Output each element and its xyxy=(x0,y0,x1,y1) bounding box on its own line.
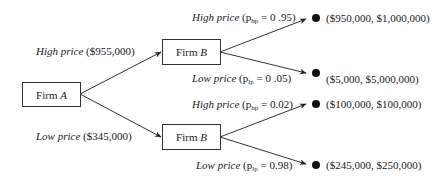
terminal-node-1 xyxy=(312,14,320,22)
terminal-node-4 xyxy=(312,161,320,169)
edge-b1-low xyxy=(220,52,306,73)
node-firm-b-upper: Firm B xyxy=(162,39,221,65)
payoff-1: ($950,000, $1,000,000) xyxy=(326,12,430,25)
firm-a-move-high: High price ($955,000) xyxy=(36,45,135,58)
node-firm-a-name: Firm xyxy=(36,89,57,101)
move-label: Low price xyxy=(192,72,236,84)
move-label: High price xyxy=(192,98,239,110)
node-firm-b-lower-name: Firm xyxy=(176,131,197,143)
edge-a-high xyxy=(80,52,161,94)
move-value: ($955,000) xyxy=(86,45,135,57)
node-firm-b-upper-player: B xyxy=(200,46,207,58)
terminal-node-2 xyxy=(312,69,320,77)
prob-subscript: lp xyxy=(248,78,253,86)
prob-subscript: hp xyxy=(251,104,258,112)
prob-value: = 0.02) xyxy=(261,98,293,110)
node-firm-b-lower-player: B xyxy=(200,131,207,143)
prob-subscript: hp xyxy=(251,17,258,25)
payoff-3: ($100,000, $100,000) xyxy=(326,98,421,111)
firm-b-move-4: Low price (plp = 0.98) xyxy=(196,159,292,176)
node-firm-a-player: A xyxy=(60,89,67,101)
prob-value: = 0.98) xyxy=(260,159,292,171)
move-value: ($345,000) xyxy=(83,130,132,142)
firm-b-move-1: High price (php = 0 .95) xyxy=(192,11,296,28)
terminal-node-3 xyxy=(312,100,320,108)
node-firm-b-lower: Firm B xyxy=(162,124,221,150)
move-label: Low price xyxy=(36,130,80,142)
payoff-2: ($5,000, $5,000,000) xyxy=(326,73,419,86)
firm-a-move-low: Low price ($345,000) xyxy=(36,130,132,143)
move-label: High price xyxy=(36,45,83,57)
move-label: High price xyxy=(192,11,239,23)
prob-value: = 0 .05) xyxy=(256,72,291,84)
node-firm-b-upper-name: Firm xyxy=(176,46,197,58)
firm-b-move-3: High price (php = 0.02) xyxy=(192,98,293,115)
firm-b-move-2: Low price (plp = 0 .05) xyxy=(192,72,291,89)
payoff-4: ($245,000, $250,000) xyxy=(326,159,421,172)
move-label: Low price xyxy=(196,159,240,171)
prob-value: = 0 .95) xyxy=(261,11,296,23)
prob-subscript: lp xyxy=(252,165,257,173)
node-firm-a: Firm A xyxy=(22,82,81,107)
